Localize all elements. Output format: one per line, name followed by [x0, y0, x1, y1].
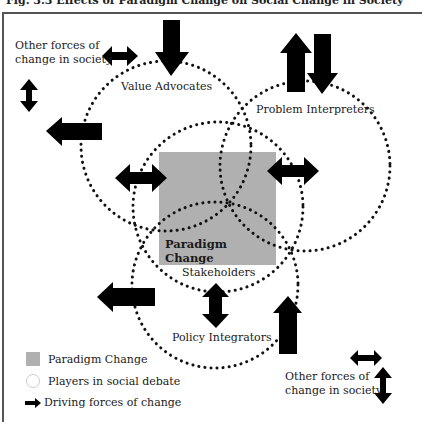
left-arrow-icon	[97, 282, 155, 312]
up-arrow-icon	[273, 296, 302, 354]
other-forces-bottom-right-label: Other forces of change in society	[285, 370, 382, 398]
label-line: change in society	[15, 53, 112, 67]
legend-label: Players in social debate	[48, 375, 180, 388]
paradigm-change-label: Paradigm Change	[165, 237, 227, 265]
label-line: Paradigm	[165, 237, 227, 251]
policy-integrators-label: Policy Integrators	[172, 331, 272, 345]
down-arrow-icon	[155, 20, 189, 76]
vertical-double-arrow-icon	[20, 79, 38, 112]
grey-square-icon	[26, 352, 40, 366]
label-line: Other forces of	[285, 370, 382, 384]
problem-interpreters-label: Problem Interpreters	[256, 103, 375, 117]
other-forces-top-left-label: Other forces of change in society	[15, 39, 112, 67]
label-line: Change	[165, 251, 227, 265]
vertical-double-arrow-icon	[202, 283, 229, 328]
legend-label: Paradigm Change	[48, 353, 148, 366]
down-arrow-icon	[307, 34, 338, 94]
label-line: change in society	[285, 384, 382, 398]
value-advocates-label: Value Advocates	[121, 80, 212, 94]
horizontal-double-arrow-icon	[350, 350, 382, 366]
legend-item-players: Players in social debate	[26, 374, 180, 388]
legend-item-driving-forces: Driving forces of change	[44, 396, 181, 409]
legend-item-paradigm-change: Paradigm Change	[26, 352, 148, 366]
left-arrow-icon	[46, 117, 102, 146]
label-line: Other forces of	[15, 39, 112, 53]
stakeholders-label: Stakeholders	[182, 266, 255, 280]
circle-icon	[26, 374, 40, 388]
legend-label: Driving forces of change	[44, 396, 181, 409]
legend-arrow-icon	[25, 398, 41, 408]
